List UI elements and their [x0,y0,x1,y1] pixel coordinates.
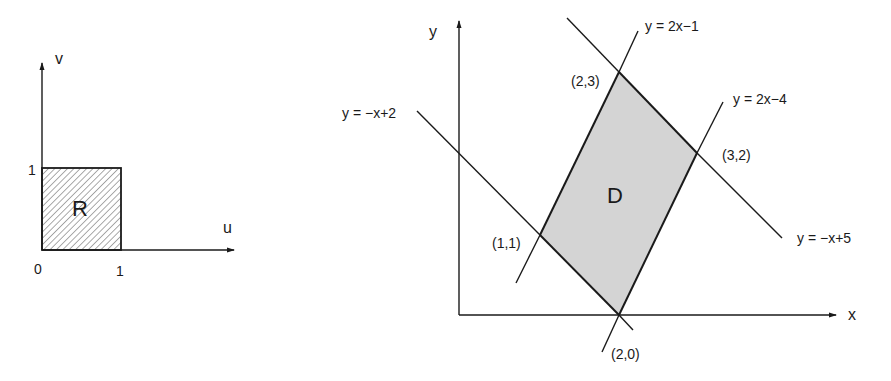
label-neg-x-plus-5: y = −x+5 [797,230,851,246]
region-d-label: D [607,183,623,208]
x-axis-label: x [848,306,856,323]
line-neg-x-plus-2 [417,111,540,235]
uv-diagram: v u 1 0 1 R [28,50,234,279]
label-2x-minus-1: y = 2x−1 [645,18,699,34]
line-neg-x-plus-5-tail [697,153,782,238]
vertex-3-2-label: (3,2) [722,147,751,163]
line-neg-x-plus-5 [567,18,619,72]
origin-label: 0 [34,261,42,277]
label-2x-minus-4: y = 2x−4 [733,91,787,107]
line-2x-minus-4-tail [697,102,723,153]
v-tick-label: 1 [28,162,36,178]
v-axis-label: v [55,50,63,67]
line-neg-x-plus-2-tail [619,315,633,330]
y-axis-label: y [429,23,437,40]
xy-diagram: y x y = 2x−1 y = 2x−4 y = −x+2 y = −x+5 … [342,18,856,362]
figure-canvas: v u 1 0 1 R y x y = 2x−1 y = 2x− [0,0,891,381]
label-neg-x-plus-2: y = −x+2 [342,105,396,121]
vertex-2-3-label: (2,3) [571,73,600,89]
vertex-2-0-label: (2,0) [611,346,640,362]
u-tick-label: 1 [116,263,124,279]
region-r-label: R [72,196,88,221]
line-2x-minus-1-tail [619,31,638,72]
u-axis-label: u [223,219,232,236]
vertex-1-1-label: (1,1) [492,235,521,251]
